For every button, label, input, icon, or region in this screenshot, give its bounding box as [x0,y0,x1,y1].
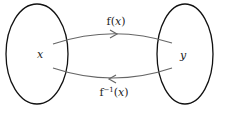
inverse-arrowhead-icon [109,75,116,83]
inverse-superscript: −1 [103,86,113,94]
domain-label: x [37,49,43,60]
codomain-label: y [180,50,186,61]
forward-map-label: f(x) [107,16,126,27]
inverse-map-label: f−1(x) [99,87,128,98]
paren-text: ) [121,15,125,28]
forward-arrow [53,34,172,44]
paren-close: ) [124,86,128,99]
